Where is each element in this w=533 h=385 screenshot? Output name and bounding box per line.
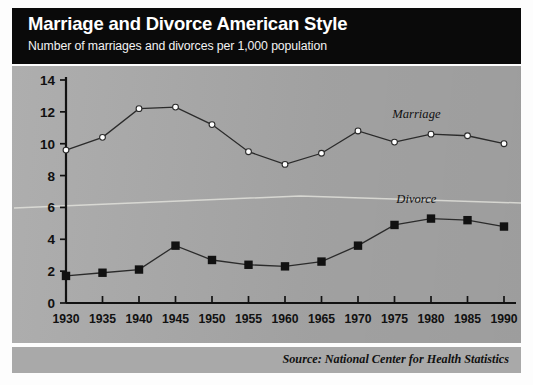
data-point-marriage-1945 (173, 104, 179, 110)
y-axis-tick-label: 2 (47, 264, 55, 279)
x-axis-tick-label: 1980 (417, 312, 444, 326)
data-point-marriage-1960 (282, 162, 288, 168)
y-axis-tick-label: 6 (47, 200, 55, 215)
y-axis-tick-label: 10 (40, 137, 55, 152)
data-point-marriage-1935 (100, 134, 106, 140)
x-axis-tick-label: 1960 (271, 312, 298, 326)
data-point-divorce-1970 (354, 241, 362, 249)
x-axis-tick-label: 1940 (125, 312, 152, 326)
x-axis-tick-label: 1950 (198, 312, 225, 326)
data-point-divorce-1960 (281, 262, 289, 270)
data-point-divorce-1965 (317, 257, 325, 265)
data-point-divorce-1975 (390, 221, 398, 229)
data-point-divorce-1935 (98, 269, 106, 277)
x-axis-tick-label: 1935 (89, 312, 116, 326)
x-axis-tick-label: 1930 (52, 312, 79, 326)
data-point-divorce-1985 (463, 216, 471, 224)
data-point-divorce-1990 (500, 222, 508, 230)
data-point-marriage-1965 (319, 150, 325, 156)
x-axis-tick-label: 1970 (344, 312, 371, 326)
chart-page: Marriage and Divorce American Style Numb… (0, 0, 533, 385)
line-chart: 02468101214 1930193519401945195019551960… (0, 0, 533, 385)
data-point-divorce-1955 (244, 261, 252, 269)
y-axis-tick-label: 8 (47, 169, 55, 184)
x-axis-tick-label: 1965 (308, 312, 335, 326)
data-point-marriage-1950 (209, 122, 215, 128)
data-point-marriage-1975 (392, 139, 398, 145)
x-axis-tick-label: 1955 (235, 312, 262, 326)
data-point-marriage-1930 (63, 147, 69, 153)
y-axis-tick-label: 4 (47, 232, 55, 247)
paper-scratch-artifact (14, 196, 521, 208)
series-markers (62, 104, 508, 280)
series-label-marriage: Marriage (391, 107, 441, 121)
data-point-marriage-1940 (136, 106, 142, 112)
data-point-divorce-1940 (135, 265, 143, 273)
data-point-divorce-1950 (208, 256, 216, 264)
data-point-marriage-1990 (501, 141, 507, 147)
x-axis-tick-label: 1985 (454, 312, 481, 326)
data-point-divorce-1930 (62, 272, 70, 280)
data-point-marriage-1985 (465, 133, 471, 139)
series-lines (66, 107, 504, 276)
x-axis-tick-label: 1945 (162, 312, 189, 326)
data-point-divorce-1945 (171, 241, 179, 249)
data-point-divorce-1980 (427, 214, 435, 222)
x-axis-tick-label: 1975 (381, 312, 408, 326)
axes-group (66, 77, 516, 303)
y-axis-tick-label: 0 (47, 296, 55, 311)
data-point-marriage-1980 (428, 131, 434, 137)
series-annotations: MarriageDivorce (391, 107, 441, 205)
series-label-divorce: Divorce (395, 192, 437, 206)
y-axis-tick-label: 12 (40, 105, 55, 120)
x-axis-tick-label: 1990 (490, 312, 517, 326)
y-axis-tick-label: 14 (40, 73, 56, 88)
data-point-marriage-1970 (355, 128, 361, 134)
data-point-marriage-1955 (246, 149, 252, 155)
x-tick-labels: 1930193519401945195019551960196519701975… (52, 296, 517, 326)
